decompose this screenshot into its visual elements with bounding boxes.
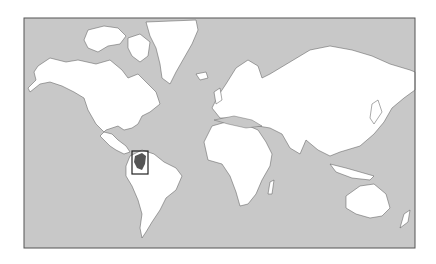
world-map: [0, 0, 436, 264]
